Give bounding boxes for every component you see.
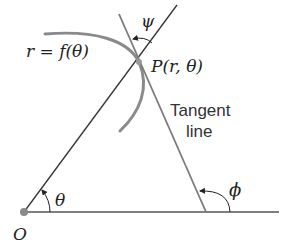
theta-angle-arc [42,190,50,212]
polar-tangent-diagram: r = f(θ) P(r, θ) Tangent line ψ θ ϕ O [0,0,287,249]
theta-label: θ [55,190,65,210]
curve-label: r = f(θ) [26,41,89,61]
origin-label: O [13,224,27,244]
tangent-label-line2: line [186,122,212,141]
diagram-svg: r = f(θ) P(r, θ) Tangent line ψ θ ϕ O [0,0,287,249]
origin-dot [20,208,28,216]
tangent-label-line1: Tangent [170,101,231,120]
point-label: P(r, θ) [150,56,203,76]
psi-label: ψ [141,11,155,31]
point-p-dot [136,59,142,65]
phi-label: ϕ [229,179,241,200]
